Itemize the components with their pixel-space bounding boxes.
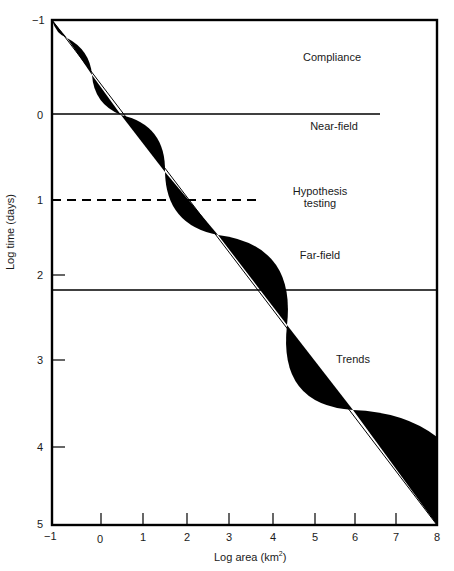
x-axis-title: Log area (km2) <box>214 548 286 563</box>
y-tick-label: 1 <box>37 194 43 206</box>
x-tick-label: −1 <box>44 530 57 542</box>
region-label-trends: Trends <box>323 353 383 365</box>
y-ticks <box>52 275 65 447</box>
x-tick-label: 0 <box>97 533 103 545</box>
y-tick-label: 3 <box>37 354 43 366</box>
lobe-3 <box>92 75 121 115</box>
lobe-4 <box>121 115 165 172</box>
y-tick-label: 2 <box>37 269 43 281</box>
x-ticks <box>101 513 396 525</box>
region-label-near-field: Near-field <box>294 120 374 132</box>
x-tick-label: 6 <box>352 531 358 543</box>
diagram-figure <box>0 0 454 571</box>
x-tick-label: 7 <box>393 531 399 543</box>
diagonal-line <box>52 20 437 525</box>
lobe-7 <box>286 325 353 410</box>
lobe-6 <box>218 235 288 325</box>
x-tick-label: 5 <box>312 531 318 543</box>
x-tick-label: 4 <box>270 531 276 543</box>
y-tick-label: 4 <box>37 441 43 453</box>
region-label-hypothesis-testing: Hypothesis testing <box>280 185 360 209</box>
region-label-far-field: Far-field <box>280 249 360 261</box>
region-label-compliance: Compliance <box>292 51 372 63</box>
x-tick-label: 8 <box>434 531 440 543</box>
x-tick-label: 3 <box>226 531 232 543</box>
x-tick-label: 2 <box>184 531 190 543</box>
y-tick-label: 0 <box>37 109 43 121</box>
y-tick-label: 5 <box>37 518 43 530</box>
x-tick-label: 1 <box>140 531 146 543</box>
y-axis-title: Log time (days) <box>4 194 16 270</box>
y-tick-label: −1 <box>32 14 45 26</box>
